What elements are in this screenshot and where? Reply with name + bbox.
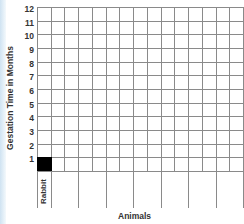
gridline-vertical bbox=[78, 7, 79, 208]
gridline-vertical bbox=[188, 7, 189, 208]
gridline-vertical bbox=[37, 7, 38, 208]
y-tick-label: 9 bbox=[22, 45, 34, 55]
gridline-vertical bbox=[229, 7, 230, 171]
y-tick-label: 1 bbox=[22, 154, 34, 164]
gridline-vertical bbox=[51, 7, 52, 208]
gridline-vertical bbox=[202, 7, 203, 171]
gridline-horizontal bbox=[37, 130, 243, 131]
y-tick-label: 12 bbox=[22, 4, 34, 14]
gridline-vertical bbox=[106, 7, 107, 208]
gridline-vertical bbox=[243, 7, 244, 208]
gridline-horizontal bbox=[37, 48, 243, 49]
gridline-horizontal bbox=[37, 89, 243, 90]
gridline-horizontal bbox=[37, 116, 243, 117]
gridline-horizontal bbox=[37, 34, 243, 35]
gridline-horizontal bbox=[37, 103, 243, 104]
gridline-vertical bbox=[64, 7, 65, 171]
bar bbox=[37, 157, 52, 171]
y-tick-label: 8 bbox=[22, 59, 34, 69]
y-tick-label: 10 bbox=[22, 31, 34, 41]
gridline-horizontal bbox=[37, 157, 243, 158]
gridline-horizontal bbox=[37, 7, 243, 8]
x-axis-label: Animals bbox=[118, 211, 151, 221]
gridline-vertical bbox=[119, 7, 120, 171]
y-axis-label: Gestation Time in Months bbox=[5, 33, 17, 163]
gridline-vertical bbox=[133, 7, 134, 208]
y-tick-label: 11 bbox=[22, 18, 34, 28]
y-tick-label: 2 bbox=[22, 141, 34, 151]
gridline-vertical bbox=[216, 7, 217, 208]
gridline-horizontal bbox=[37, 62, 243, 63]
gridline-vertical bbox=[147, 7, 148, 171]
y-tick-label: 6 bbox=[22, 86, 34, 96]
gridline-vertical bbox=[92, 7, 93, 171]
category-label: Rabbit bbox=[39, 179, 48, 204]
gridline-horizontal bbox=[37, 21, 243, 22]
gridline-vertical bbox=[174, 7, 175, 171]
gridline-horizontal bbox=[37, 75, 243, 76]
gridline-vertical bbox=[161, 7, 162, 208]
y-tick-label: 4 bbox=[22, 113, 34, 123]
y-tick-label: 3 bbox=[22, 127, 34, 137]
gridline-horizontal bbox=[37, 171, 243, 172]
y-tick-label: 7 bbox=[22, 72, 34, 82]
chart-grid bbox=[37, 7, 243, 171]
y-tick-label: 5 bbox=[22, 100, 34, 110]
gridline-horizontal bbox=[37, 144, 243, 145]
